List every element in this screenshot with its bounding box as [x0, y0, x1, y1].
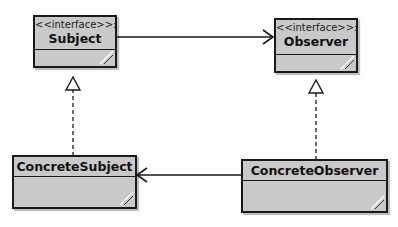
class-name: Observer	[276, 34, 356, 49]
class-observer[interactable]: <<interface>>: Observer	[274, 18, 358, 73]
resize-handle-icon[interactable]	[369, 194, 385, 210]
class-header: ConcreteObserver	[243, 161, 386, 181]
class-body	[14, 177, 135, 207]
class-header: ConcreteSubject	[14, 157, 135, 177]
class-name: ConcreteSubject	[14, 159, 135, 174]
stereotype-label: <<interface>>:	[35, 17, 115, 31]
class-body	[35, 50, 115, 66]
class-header: <<interface>>: Subject	[35, 17, 115, 50]
class-name: Subject	[35, 31, 115, 46]
class-subject[interactable]: <<interface>>: Subject	[33, 15, 117, 68]
resize-handle-icon[interactable]	[98, 49, 114, 65]
association-concreteobserver-concretesubject	[137, 168, 241, 182]
class-concrete-subject[interactable]: ConcreteSubject	[12, 155, 137, 209]
stereotype-label: <<interface>>:	[276, 20, 356, 34]
class-body	[243, 181, 386, 211]
class-header: <<interface>>: Observer	[276, 20, 356, 55]
resize-handle-icon[interactable]	[339, 54, 355, 70]
realization-concretesubject-subject	[66, 77, 80, 155]
class-body	[276, 55, 356, 71]
resize-handle-icon[interactable]	[118, 190, 134, 206]
class-concrete-observer[interactable]: ConcreteObserver	[241, 159, 388, 213]
class-name: ConcreteObserver	[243, 163, 386, 178]
realization-concreteobserver-observer	[309, 80, 323, 159]
association-subject-observer	[117, 30, 273, 44]
